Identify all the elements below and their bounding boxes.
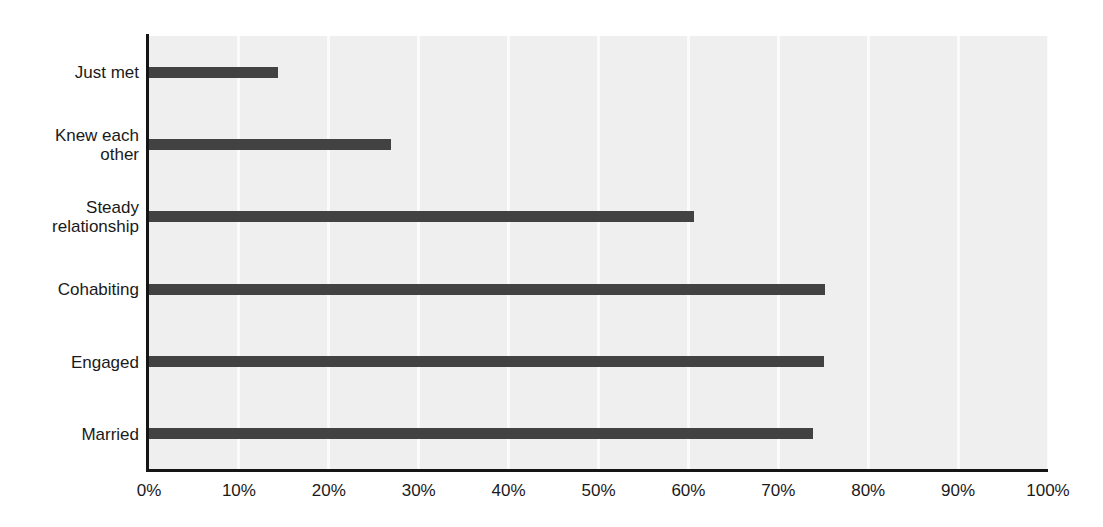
- x-axis-tick-label: 80%: [851, 480, 885, 502]
- gridline: [507, 36, 510, 470]
- y-axis-label: Cohabiting: [0, 280, 139, 299]
- y-axis-label: Just met: [0, 63, 139, 82]
- x-axis-tick-label: 10%: [222, 480, 256, 502]
- bar: [149, 356, 824, 367]
- x-axis-tick-label: 40%: [492, 480, 526, 502]
- gridline: [867, 36, 870, 470]
- gridline: [957, 36, 960, 470]
- gridline: [777, 36, 780, 470]
- gridline: [597, 36, 600, 470]
- gridline: [1047, 36, 1049, 470]
- x-axis-tick-label: 60%: [671, 480, 705, 502]
- gridline: [237, 36, 240, 470]
- y-axis-label: Married: [0, 424, 139, 443]
- y-axis-label: Knew each other: [0, 126, 139, 164]
- bar: [149, 284, 825, 295]
- x-axis-tick-label: 20%: [312, 480, 346, 502]
- plot-area: [149, 36, 1048, 470]
- x-axis-line: [146, 469, 1048, 472]
- y-axis-label: Steady relationship: [0, 198, 139, 236]
- bar: [149, 428, 813, 439]
- bar-chart: Just metKnew each otherSteady relationsh…: [0, 0, 1103, 527]
- x-axis-tick-labels: 0%10%20%30%40%50%60%70%80%90%100%: [0, 480, 1103, 510]
- y-axis-line: [146, 34, 149, 472]
- x-axis-tick-label: 0%: [137, 480, 162, 502]
- bar: [149, 139, 391, 150]
- gridline: [417, 36, 420, 470]
- x-axis-tick-label: 50%: [581, 480, 615, 502]
- bar: [149, 67, 278, 78]
- x-axis-tick-label: 30%: [402, 480, 436, 502]
- x-axis-tick-label: 70%: [761, 480, 795, 502]
- gridline: [687, 36, 690, 470]
- x-axis-tick-label: 90%: [941, 480, 975, 502]
- x-axis-tick-label: 100%: [1026, 480, 1069, 502]
- y-axis-label: Engaged: [0, 352, 139, 371]
- gridline: [327, 36, 330, 470]
- bar: [149, 211, 694, 222]
- y-axis-labels: Just metKnew each otherSteady relationsh…: [0, 0, 139, 527]
